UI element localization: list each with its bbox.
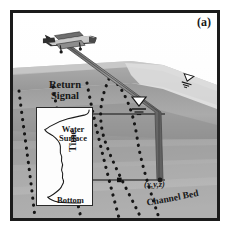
xyz-coordinate-label: (x,y,z) — [144, 180, 165, 189]
return-signal-line-1: Return — [39, 79, 91, 90]
return-signal-inset — [36, 107, 93, 206]
return-signal-waveform-plot — [37, 108, 92, 205]
time-axis-label: Time — [68, 130, 79, 152]
bottom-return-label: Bottom — [57, 196, 84, 205]
figure-frame: (a) Return Signal Water Surface Time Bot… — [10, 10, 220, 221]
return-signal-line-2: Signal — [39, 90, 91, 101]
panel-label: (a) — [197, 16, 211, 29]
figure-panel: (a) Return Signal Water Surface Time Bot… — [0, 0, 230, 237]
return-signal-label: Return Signal — [39, 79, 91, 101]
